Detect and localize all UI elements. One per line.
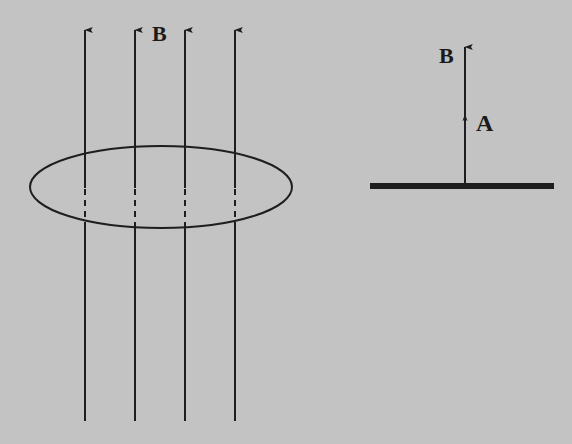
right-figure: B A — [370, 43, 554, 189]
left-figure: B — [30, 21, 292, 421]
vector-label-b: B — [439, 43, 454, 68]
loop-ellipse-top-arc — [30, 146, 292, 187]
loop-ellipse-bottom-arc — [30, 187, 292, 228]
diagram-canvas: B B A — [0, 0, 572, 444]
field-label-b: B — [152, 21, 167, 46]
vector-label-a: A — [476, 110, 494, 136]
surface-bar — [370, 183, 554, 189]
